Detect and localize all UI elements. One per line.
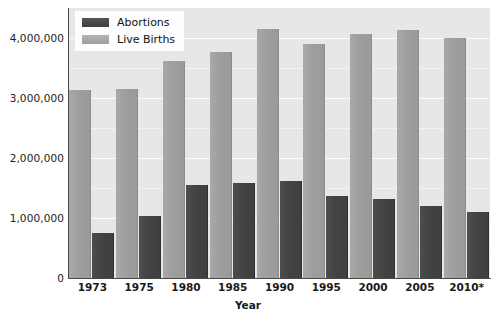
x-axis-tick-label: 1995 [312,281,341,293]
x-axis-tick-label: 1973 [78,281,107,293]
bar-group [350,8,396,278]
legend-item-abortions: Abortions [82,16,175,29]
bar-live-births [397,30,419,278]
x-axis-tick-label: 2010* [449,281,484,293]
x-axis-line [68,278,491,279]
x-axis-tick-label: 1975 [125,281,154,293]
x-axis-tick-label: 1980 [171,281,200,293]
bar-abortions [420,206,442,278]
x-axis-tick-label: 2000 [358,281,387,293]
x-axis-tick-label: 1990 [265,281,294,293]
bar-group [210,8,256,278]
bar-abortions [280,181,302,278]
bar-group [444,8,490,278]
bar-abortions [92,233,114,278]
bar-abortions [233,183,255,278]
y-axis-tick-label: 0 [57,272,64,284]
bar-chart: 01,000,0002,000,0003,000,0004,000,000 19… [0,0,496,322]
y-axis-tick-labels: 01,000,0002,000,0003,000,0004,000,000 [0,0,64,322]
x-axis-tick-labels: 197319751980198519901995200020052010* [69,281,490,301]
bar-live-births [163,61,185,278]
dark-gray-swatch-icon [82,18,109,27]
y-axis-tick-label: 3,000,000 [10,92,64,104]
bar-group [397,8,443,278]
bar-live-births [69,90,91,278]
x-axis-tick-label: 1985 [218,281,247,293]
bar-live-births [350,34,372,278]
bar-live-births [257,29,279,278]
y-axis-tick-label: 4,000,000 [10,32,64,44]
bar-abortions [326,196,348,278]
bar-abortions [139,216,161,278]
y-axis-tick-label: 2,000,000 [10,152,64,164]
bar-live-births [303,44,325,278]
bar-abortions [373,199,395,278]
bar-group [257,8,303,278]
legend-item-live-births: Live Births [82,33,175,46]
chart-legend: Abortions Live Births [75,11,184,51]
bar-group [303,8,349,278]
bar-live-births [444,38,466,278]
x-axis-tick-label: 2005 [405,281,434,293]
light-gray-swatch-icon [82,35,109,44]
y-axis-tick-label: 1,000,000 [10,212,64,224]
bar-live-births [210,52,232,278]
legend-item-label: Abortions [117,16,170,29]
bar-abortions [186,185,208,278]
bar-abortions [467,212,489,278]
legend-item-label: Live Births [117,33,175,46]
bar-live-births [116,89,138,278]
x-axis-title: Year [0,299,496,311]
